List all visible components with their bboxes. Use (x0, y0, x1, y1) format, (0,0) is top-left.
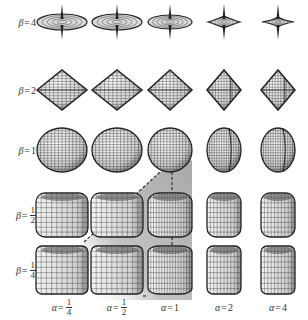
shape-octahedron-r1-c2 (148, 70, 192, 110)
label-equals: = (22, 265, 28, 276)
col-label-alpha-2: α=1 (145, 296, 195, 318)
label-variable: α (161, 302, 166, 313)
label-equals: = (58, 302, 64, 313)
shape-star-spike-r0-c2 (148, 4, 192, 40)
label-fraction: 12 (30, 206, 37, 225)
col-label-alpha-3: α=2 (199, 296, 249, 318)
row-label-beta-4: β=14 (0, 260, 36, 280)
shape-star-spike-r0-c3 (208, 4, 240, 40)
label-equals: = (167, 302, 173, 313)
row-label-beta-2: β=1 (0, 140, 36, 160)
shape-octahedron-r1-c1 (92, 70, 142, 110)
label-variable: α (269, 302, 274, 313)
col-label-alpha-1: α=12 (92, 296, 142, 318)
row-label-beta-3: β=12 (0, 205, 36, 225)
label-value: 1 (174, 302, 179, 313)
col-label-alpha-0: α=14 (37, 296, 87, 318)
shape-star-spike-r0-c0 (37, 4, 87, 40)
shape-box-r4-c2 (148, 246, 192, 294)
shape-sphere-r2-c3 (207, 128, 241, 172)
shape-rounded-box-r3-c2 (148, 193, 192, 237)
shape-sphere-r2-c4 (261, 128, 295, 172)
row-label-beta-1: β=2 (0, 80, 36, 100)
row-label-beta-0: β=4 (0, 12, 36, 32)
label-value: 2 (31, 85, 36, 96)
shape-sphere-r2-c0 (37, 128, 87, 172)
shape-rounded-box-r3-c4 (261, 193, 295, 237)
label-value: 4 (31, 17, 36, 28)
label-value: 1 (31, 145, 36, 156)
shape-rounded-box-r3-c3 (207, 193, 241, 237)
label-fraction: 14 (30, 261, 37, 280)
label-variable: β (16, 210, 21, 221)
label-variable: α (215, 302, 220, 313)
shape-box-r4-c3 (207, 246, 241, 294)
superquadric-figure: β=4β=2β=1β=12β=14α=14α=12α=1α=2α=4 (0, 0, 308, 320)
label-equals: = (24, 85, 30, 96)
label-variable: β (16, 265, 21, 276)
shapes (36, 4, 295, 294)
shape-box-r4-c1 (91, 246, 143, 294)
shape-rounded-box-r3-c0 (36, 193, 88, 237)
label-value: 4 (282, 302, 287, 313)
shape-sphere-r2-c1 (92, 128, 142, 172)
label-variable: α (107, 302, 112, 313)
col-label-alpha-4: α=4 (253, 296, 303, 318)
shape-octahedron-r1-c3 (207, 70, 241, 110)
shape-octahedron-r1-c4 (261, 70, 295, 110)
label-equals: = (24, 145, 30, 156)
shape-star-spike-r0-c1 (92, 4, 142, 40)
label-fraction: 14 (66, 298, 73, 317)
shape-star-spike-r0-c4 (262, 4, 294, 40)
label-variable: β (18, 17, 23, 28)
label-variable: β (18, 85, 23, 96)
label-equals: = (221, 302, 227, 313)
label-variable: β (18, 145, 23, 156)
label-variable: α (52, 302, 57, 313)
shape-box-r4-c0 (36, 246, 88, 294)
shape-box-r4-c4 (261, 246, 295, 294)
label-equals: = (22, 210, 28, 221)
label-fraction: 12 (121, 298, 128, 317)
shape-rounded-box-r3-c1 (91, 193, 143, 237)
label-equals: = (24, 17, 30, 28)
shape-sphere-r2-c2 (148, 128, 192, 172)
label-equals: = (113, 302, 119, 313)
shape-octahedron-r1-c0 (37, 70, 87, 110)
shape-grid-canvas (0, 0, 308, 320)
label-equals: = (275, 302, 281, 313)
label-value: 2 (228, 302, 233, 313)
